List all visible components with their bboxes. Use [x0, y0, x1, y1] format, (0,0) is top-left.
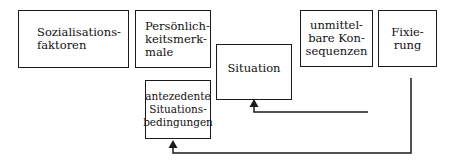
- arrowhead-icon: [169, 140, 178, 148]
- edge-fixierung-to-antezedente: [169, 78, 412, 153]
- connector-layer: [0, 0, 450, 164]
- edge-konsequenzen-to-situation: [250, 99, 369, 112]
- arrowhead-icon: [250, 99, 259, 107]
